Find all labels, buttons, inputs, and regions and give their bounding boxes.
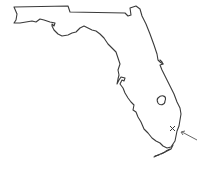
lake-okeechobee xyxy=(157,96,165,105)
x-marker-icon xyxy=(170,126,175,131)
florida-outline-map xyxy=(0,0,209,169)
florida-state-outline xyxy=(14,6,181,157)
arrow-icon xyxy=(181,131,197,140)
